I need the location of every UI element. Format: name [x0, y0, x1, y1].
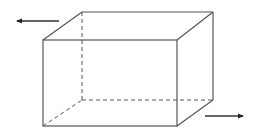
prism-svg	[0, 0, 254, 136]
top-right-depth-edge	[177, 12, 213, 40]
top-left-depth-edge	[43, 12, 82, 40]
bottom-left-depth-edge	[43, 100, 82, 126]
prism-diagram	[0, 0, 254, 136]
hidden-edges	[43, 12, 213, 126]
bottom-right-depth-edge	[177, 100, 213, 126]
